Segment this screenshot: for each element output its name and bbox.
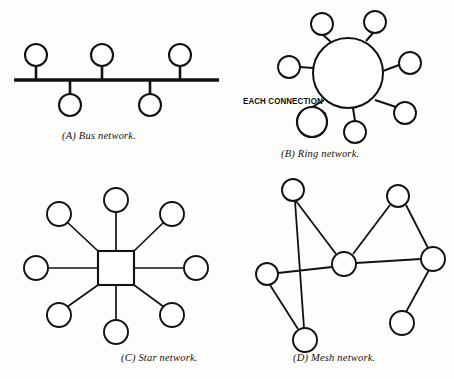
mesh-link-2-3 bbox=[353, 205, 390, 254]
mesh-link-4-7 bbox=[406, 270, 429, 312]
ring-backbone-circle bbox=[313, 38, 383, 108]
ring-node-1[interactable] bbox=[311, 13, 333, 35]
caption-mesh-network: (D) Mesh network. bbox=[293, 352, 375, 363]
star-node-s[interactable] bbox=[104, 320, 128, 344]
bus-node-3[interactable] bbox=[91, 44, 113, 66]
star-spoke-se bbox=[134, 285, 164, 307]
caption-bus-network: (A) Bus network. bbox=[62, 130, 136, 141]
star-spoke-ne bbox=[134, 222, 164, 251]
mesh-node-5[interactable] bbox=[256, 263, 278, 285]
bus-node-4[interactable] bbox=[139, 94, 161, 116]
ring-node-3[interactable] bbox=[278, 56, 300, 78]
mesh-node-7[interactable] bbox=[390, 311, 414, 335]
mesh-link-3-5 bbox=[278, 267, 332, 273]
network-topology-diagram bbox=[0, 0, 454, 379]
star-spoke-sw bbox=[67, 285, 98, 307]
caption-star-network: (C) Star network. bbox=[121, 352, 198, 363]
bus-node-5[interactable] bbox=[169, 44, 191, 66]
mesh-node-1[interactable] bbox=[282, 179, 304, 201]
star-hub-square[interactable] bbox=[98, 251, 134, 285]
ring-node-4[interactable] bbox=[399, 52, 421, 74]
star-node-sw[interactable] bbox=[47, 303, 71, 327]
star-node-w[interactable] bbox=[24, 256, 48, 280]
mesh-link-2-4 bbox=[406, 205, 428, 248]
mesh-link-5-6 bbox=[270, 285, 298, 329]
mesh-link-1-3 bbox=[296, 201, 336, 254]
mesh-link-1-6 bbox=[295, 201, 304, 328]
panel-b-ring-network bbox=[278, 11, 421, 143]
mesh-node-6[interactable] bbox=[293, 328, 317, 352]
ring-stub-6 bbox=[353, 108, 355, 121]
ring-stub-3 bbox=[300, 67, 313, 68]
each-connection-annotation: EACH CONNECTION bbox=[243, 96, 323, 106]
star-node-se[interactable] bbox=[160, 303, 184, 327]
bus-node-1[interactable] bbox=[25, 44, 47, 66]
ring-node-5[interactable] bbox=[394, 102, 416, 124]
panel-c-star-network bbox=[24, 188, 208, 344]
bus-node-2[interactable] bbox=[59, 94, 81, 116]
caption-ring-network: (B) Ring network. bbox=[281, 148, 359, 159]
mesh-node-3[interactable] bbox=[332, 252, 356, 276]
star-node-e[interactable] bbox=[184, 256, 208, 280]
ring-node-6[interactable] bbox=[344, 121, 366, 143]
panel-a-bus-network bbox=[14, 44, 219, 116]
ring-node-7-highlighted[interactable] bbox=[297, 107, 327, 137]
star-node-n[interactable] bbox=[104, 188, 128, 212]
ring-stub-4 bbox=[383, 65, 399, 71]
ring-node-2[interactable] bbox=[364, 11, 386, 33]
ring-stub-5 bbox=[375, 100, 396, 107]
mesh-link-3-4 bbox=[356, 259, 421, 263]
figure-sheet: EACH CONNECTION (A) Bus network. (B) Rin… bbox=[0, 0, 454, 379]
star-spoke-nw bbox=[67, 222, 98, 251]
mesh-node-4[interactable] bbox=[421, 247, 445, 271]
mesh-node-2[interactable] bbox=[387, 185, 409, 207]
star-node-ne[interactable] bbox=[160, 202, 184, 226]
star-node-nw[interactable] bbox=[47, 202, 71, 226]
panel-d-mesh-network bbox=[256, 179, 445, 352]
